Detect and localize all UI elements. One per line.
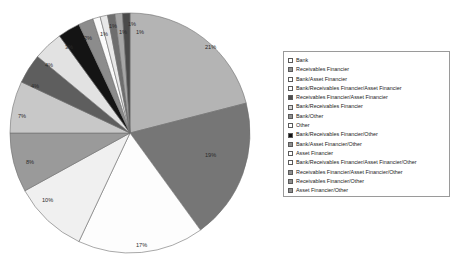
pie-chart-figure: 21%19%17%10%8%7%4%4%3%2%1%1%1%1%1% BankR… bbox=[0, 0, 455, 265]
legend-swatch-icon bbox=[288, 142, 293, 147]
legend-swatch-icon bbox=[288, 105, 293, 110]
legend-item: Bank/Asset Financier/Other bbox=[288, 140, 446, 149]
legend-item: Bank/Other bbox=[288, 112, 446, 121]
legend-swatch-icon bbox=[288, 114, 293, 119]
slice-percentage-label: 10% bbox=[42, 198, 53, 204]
legend-item: Bank/Receivables Financier/Asset Financi… bbox=[288, 158, 446, 167]
legend-item-label: Bank/Receivables Financier/Asset Financi… bbox=[296, 160, 416, 165]
slice-percentage-label: 7% bbox=[18, 114, 26, 120]
legend-item-label: Bank/Receivables Financier bbox=[296, 104, 363, 109]
legend-item-label: Bank/Receivables Financier/Asset Financi… bbox=[296, 86, 401, 91]
legend-item: Asset Financier/Other bbox=[288, 186, 446, 195]
legend-item-label: Bank/Receivables Financier/Other bbox=[296, 132, 378, 137]
legend-swatch-icon bbox=[288, 67, 293, 72]
legend-item: Bank/Receivables Financier bbox=[288, 102, 446, 111]
slice-percentage-label: 1% bbox=[136, 30, 144, 36]
slice-percentage-label: 1% bbox=[100, 32, 108, 38]
slice-percentage-label: 8% bbox=[26, 160, 34, 166]
legend-swatch-icon bbox=[288, 133, 293, 138]
legend-swatch-icon bbox=[288, 123, 293, 128]
legend-item: Receivables Financier bbox=[288, 65, 446, 74]
slice-percentage-label: 3% bbox=[65, 45, 73, 51]
slice-percentage-label: 19% bbox=[205, 153, 216, 159]
slice-percentage-label: 21% bbox=[205, 45, 216, 51]
legend-swatch-icon bbox=[288, 86, 293, 91]
legend-item-label: Asset Financier bbox=[296, 151, 333, 156]
legend-item: Bank/Receivables Financier/Asset Financi… bbox=[288, 84, 446, 93]
legend-item-label: Asset Financier/Other bbox=[296, 188, 348, 193]
legend-item-label: Bank/Asset Financier/Other bbox=[296, 142, 362, 147]
slice-percentage-label: 1% bbox=[109, 24, 117, 30]
pie-svg bbox=[0, 0, 275, 265]
legend-item: Asset Financier bbox=[288, 149, 446, 158]
legend-item-label: Bank bbox=[296, 58, 308, 63]
legend-item: Receivables Financier/Asset Financier bbox=[288, 93, 446, 102]
legend-swatch-icon bbox=[288, 188, 293, 193]
legend-item-label: Receivables Financier/Asset Financier bbox=[296, 95, 388, 100]
legend-swatch-icon bbox=[288, 170, 293, 175]
legend-item: Other bbox=[288, 121, 446, 130]
legend-item: Bank/Receivables Financier/Other bbox=[288, 130, 446, 139]
legend-swatch-icon bbox=[288, 179, 293, 184]
pie-plot-area: 21%19%17%10%8%7%4%4%3%2%1%1%1%1%1% bbox=[0, 0, 275, 265]
slice-percentage-label: 1% bbox=[119, 30, 127, 36]
legend-swatch-icon bbox=[288, 95, 293, 100]
legend-item-label: Receivables Financier bbox=[296, 67, 349, 72]
legend-item-label: Receivables Financier/Other bbox=[296, 179, 364, 184]
slice-percentage-label: 4% bbox=[31, 84, 39, 90]
legend-swatch-icon bbox=[288, 58, 293, 63]
legend-item-label: Other bbox=[296, 123, 309, 128]
legend-item-label: Receivables Financier/Asset Financier/Ot… bbox=[296, 170, 403, 175]
slice-percentage-label: 2% bbox=[84, 36, 92, 42]
legend-swatch-icon bbox=[288, 160, 293, 165]
chart-legend: BankReceivables FinancierBank/Asset Fina… bbox=[283, 51, 450, 197]
slice-percentage-label: 1% bbox=[128, 22, 136, 28]
legend-item: Receivables Financier/Asset Financier/Ot… bbox=[288, 168, 446, 177]
legend-item-label: Bank/Asset Financier bbox=[296, 77, 347, 82]
legend-item: Bank bbox=[288, 56, 446, 65]
legend-item: Receivables Financier/Other bbox=[288, 177, 446, 186]
slice-percentage-label: 17% bbox=[136, 243, 147, 249]
legend-item: Bank/Asset Financier bbox=[288, 75, 446, 84]
slice-percentage-label: 4% bbox=[45, 63, 53, 69]
legend-swatch-icon bbox=[288, 151, 293, 156]
legend-item-label: Bank/Other bbox=[296, 114, 323, 119]
legend-swatch-icon bbox=[288, 77, 293, 82]
